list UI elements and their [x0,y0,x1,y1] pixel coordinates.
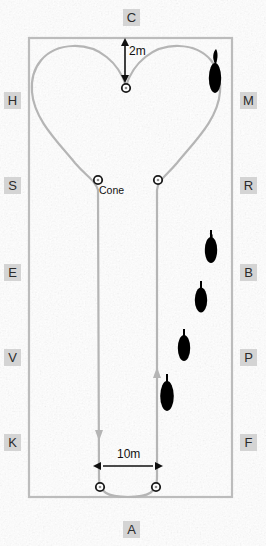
arena-diagram-svg [0,0,266,546]
arena-letter-R[interactable]: R [240,177,257,194]
arena-letter-M[interactable]: M [240,92,257,109]
path-right-loop [126,46,220,190]
measure-2m-arrow-up [121,38,129,46]
measure-2m [121,38,129,83]
cone-bottom-right [152,483,160,491]
cone-mid-left [94,176,102,184]
marker-2 [205,230,217,263]
arena-boundary [29,38,232,497]
cone-top-center [122,84,130,92]
measure-10m-arrow-left [93,462,101,470]
marker-3 [195,281,207,313]
marker-1 [209,49,221,93]
arena-letter-S[interactable]: S [4,177,21,194]
marker-4 [178,329,190,361]
arena-letter-B[interactable]: B [240,264,257,281]
arena-letter-F[interactable]: F [240,434,257,451]
dressage-arena-figure: C H M S R E B V P K F A 2m 10m Cone [0,0,266,546]
measure-2m-label: 2m [129,44,146,58]
arena-letter-A[interactable]: A [123,521,140,538]
arena-letter-C[interactable]: C [123,9,140,26]
arena-letter-K[interactable]: K [4,434,21,451]
cone-bottom-left [96,483,104,491]
ridden-path [32,46,220,497]
measure-10m-arrow-right [155,462,163,470]
measure-10m [93,462,163,470]
arrow-left-down [95,430,103,441]
rider-marker-group [160,49,221,411]
arena-letter-E[interactable]: E [4,264,21,281]
cone-group [94,84,162,491]
arena-letter-H[interactable]: H [4,92,21,109]
direction-arrowheads [95,205,161,441]
arena-letter-P[interactable]: P [240,349,257,366]
measure-10m-label: 10m [117,447,140,461]
arena-letter-V[interactable]: V [4,349,21,366]
path-bottom-curve [99,478,157,497]
marker-5 [160,374,174,411]
cone-mid-right [154,176,162,184]
cone-text-label: Cone [99,184,124,196]
path-left-loop [32,46,126,190]
arrow-right-up [153,367,161,378]
